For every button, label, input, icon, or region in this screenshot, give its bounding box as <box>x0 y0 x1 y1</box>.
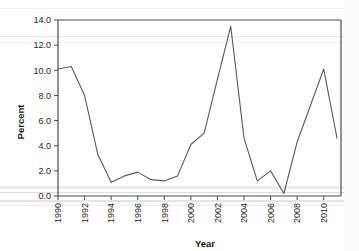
y-tick-label: 0.0 <box>38 191 51 201</box>
x-tick-label: 2004 <box>239 203 249 223</box>
x-axis-tick-labels: 1990 1992 1994 1996 1998 2000 2002 2004 … <box>53 203 329 223</box>
x-tick-label: 2010 <box>319 203 329 223</box>
x-tick-label: 2000 <box>186 203 196 223</box>
y-tick-label: 8.0 <box>38 91 51 101</box>
x-tick-label: 1994 <box>106 203 116 223</box>
x-tick-label: 1992 <box>80 203 90 223</box>
y-axis-title: Percent <box>15 104 26 140</box>
data-series-line <box>58 26 337 193</box>
y-tick-label: 4.0 <box>38 141 51 151</box>
x-axis-title: Year <box>195 238 215 249</box>
chart-figure: 0.0 2.0 4.0 6.0 8.0 10.0 12.0 14.0 1990 … <box>0 0 359 251</box>
x-tick-label: 1998 <box>160 203 170 223</box>
axis-frame <box>58 20 341 196</box>
y-tick-label: 14.0 <box>33 15 51 25</box>
y-tick-label: 12.0 <box>33 40 51 50</box>
x-tick-label: 1990 <box>53 203 63 223</box>
y-tick-label: 6.0 <box>38 116 51 126</box>
x-tick-label: 1996 <box>133 203 143 223</box>
x-tick-label: 2006 <box>266 203 276 223</box>
x-tick-label: 2008 <box>292 203 302 223</box>
line-chart-plot: 0.0 2.0 4.0 6.0 8.0 10.0 12.0 14.0 1990 … <box>0 0 359 251</box>
y-axis-tick-labels: 0.0 2.0 4.0 6.0 8.0 10.0 12.0 14.0 <box>33 15 51 201</box>
x-tick-label: 2002 <box>213 203 223 223</box>
y-tick-label: 2.0 <box>38 166 51 176</box>
y-tick-label: 10.0 <box>33 66 51 76</box>
